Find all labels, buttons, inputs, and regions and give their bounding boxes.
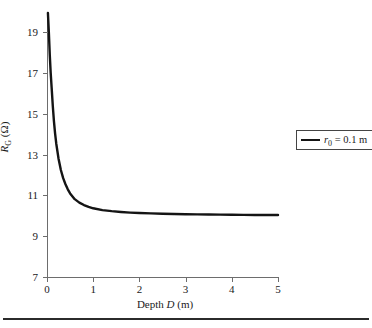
x-axis-tick	[93, 277, 94, 282]
x-axis-tick-label: 3	[183, 284, 189, 295]
y-axis-title-variable: R	[0, 146, 10, 153]
x-axis-tick	[186, 277, 187, 282]
x-axis-tick-label: 1	[90, 284, 96, 295]
x-axis-title: Depth D (m)	[0, 298, 330, 311]
x-axis-tick-label: 2	[137, 284, 143, 295]
x-axis-line	[47, 277, 279, 278]
bottom-divider-rule	[3, 318, 369, 320]
x-axis-tick-label: 0	[44, 284, 50, 295]
x-axis-tick-label: 5	[275, 284, 281, 295]
legend-label: r0 = 0.1 m	[324, 134, 367, 146]
y-axis-tick: 15	[43, 114, 48, 115]
y-axis-tick: 9	[43, 236, 48, 237]
y-axis-tick-label: 15	[27, 108, 38, 119]
y-axis-tick-label: 11	[27, 190, 38, 201]
legend: r0 = 0.1 m	[296, 130, 372, 150]
x-axis-tick-label: 4	[229, 284, 235, 295]
y-axis-title: RG (Ω)	[0, 122, 11, 167]
y-axis-title-subscript: G	[4, 140, 13, 146]
y-axis-tick-label: 13	[27, 149, 38, 160]
figure-page: 791113151719012345 RG (Ω) Depth D (m) r0…	[0, 0, 372, 328]
legend-color-swatch	[301, 139, 320, 142]
y-axis-tick-label: 9	[33, 231, 39, 242]
legend-label-value: = 0.1 m	[332, 134, 367, 145]
plot-area: 791113151719012345	[47, 12, 278, 277]
y-axis-tick-label: 7	[33, 272, 39, 283]
y-axis-tick: 19	[43, 32, 48, 33]
x-axis-title-prefix: Depth	[137, 298, 167, 310]
x-axis-tick	[232, 277, 233, 282]
y-axis-title-units: (Ω)	[0, 122, 10, 140]
y-axis-tick-label: 19	[27, 27, 38, 38]
y-axis-tick: 13	[43, 155, 48, 156]
x-axis-title-units: (m)	[174, 298, 193, 310]
y-axis-tick: 11	[43, 195, 48, 196]
series-curve-r0-0.1m	[47, 12, 278, 277]
y-axis-tick-label: 17	[27, 68, 38, 79]
y-axis-tick: 17	[43, 73, 48, 74]
x-axis-tick	[278, 277, 279, 282]
x-axis-tick	[47, 277, 48, 282]
x-axis-tick	[139, 277, 140, 282]
